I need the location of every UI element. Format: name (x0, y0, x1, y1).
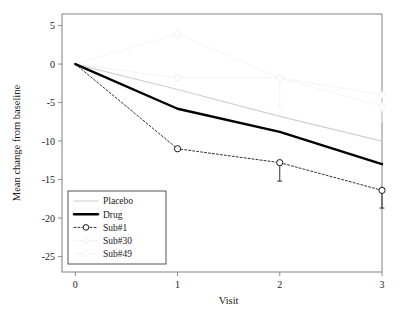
y-tick-label--10: -10 (42, 136, 55, 147)
legend-label-placebo: Placebo (103, 196, 133, 206)
y-tick-label--25: -25 (42, 251, 55, 262)
marker-sub30-v3 (379, 92, 385, 98)
y-tick-label-0: 0 (50, 59, 55, 70)
legend-label-sub1: Sub#1 (103, 223, 128, 233)
y-tick-label--20: -20 (42, 213, 55, 224)
line-chart: 50-5-10-15-20-250123VisitMean change fro… (0, 0, 419, 315)
marker-sub1-v1 (174, 146, 180, 152)
x-tick-label-1: 1 (175, 279, 180, 290)
y-tick-label--5: -5 (47, 97, 55, 108)
marker-sub1-v2 (277, 160, 283, 166)
x-tick-label-3: 3 (380, 279, 385, 290)
legend-marker-sub30 (83, 238, 89, 244)
legend-label-sub49: Sub#49 (103, 249, 132, 259)
legend-label-sub30: Sub#30 (103, 236, 132, 246)
y-tick-label--15: -15 (42, 174, 55, 185)
marker-sub30-v1 (174, 75, 180, 81)
y-tick-label-5: 5 (50, 20, 55, 31)
chart-container: 50-5-10-15-20-250123VisitMean change fro… (0, 0, 419, 315)
y-axis-title: Mean change from baseline (11, 84, 22, 201)
x-tick-label-2: 2 (277, 279, 282, 290)
legend-marker-sub1 (83, 225, 89, 231)
x-axis-title: Visit (219, 295, 239, 306)
legend-label-drug: Drug (103, 210, 123, 220)
marker-sub1-v3 (379, 187, 385, 193)
marker-sub30-v2 (277, 75, 283, 81)
x-tick-label-0: 0 (73, 279, 78, 290)
